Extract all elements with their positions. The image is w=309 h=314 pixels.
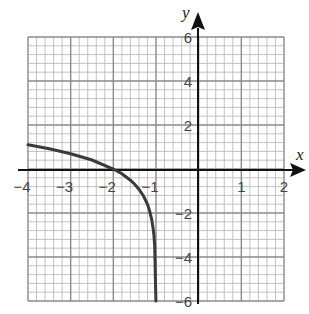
y-axis-label: y [180, 3, 190, 22]
x-tick-label: −1 [141, 178, 158, 195]
curve-line [28, 145, 156, 301]
y-tick-label: −4 [175, 249, 192, 266]
x-axis-label: x [295, 145, 304, 164]
x-tick-label: 2 [280, 178, 288, 195]
x-tick-label: −3 [56, 178, 73, 195]
x-tick-label: −2 [99, 178, 116, 195]
y-tick-label: −2 [175, 205, 192, 222]
x-tick-label: 1 [237, 178, 245, 195]
y-tick-label: 2 [184, 117, 192, 134]
x-tick-label: −4 [13, 178, 30, 195]
y-tick-label: 4 [184, 73, 192, 90]
y-tick-label: −6 [175, 293, 192, 310]
axes: x y [18, 3, 306, 304]
graph: x y −4−3−2−112642−2−4−6 [0, 0, 309, 314]
y-tick-label: 6 [184, 29, 192, 46]
y-axis-arrow-icon [191, 12, 205, 30]
